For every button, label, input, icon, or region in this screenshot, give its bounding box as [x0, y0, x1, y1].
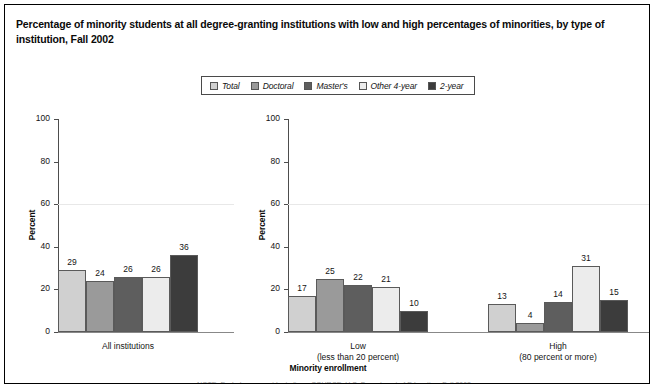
bar [288, 296, 316, 332]
bar [600, 300, 628, 332]
y-axis-tick [284, 204, 288, 205]
y-axis-tick [284, 247, 288, 248]
group-label-line1: High [498, 341, 618, 352]
x-axis-title: Minority enrollment [5, 363, 650, 373]
y-axis-tick [284, 332, 288, 333]
x-axis-line [288, 332, 650, 333]
bar [516, 323, 544, 332]
group-label-line1: Low [298, 341, 418, 352]
bar-value-label: 13 [482, 291, 522, 301]
y-axis-tick-label: 0 [258, 326, 280, 336]
y-axis-tick [284, 119, 288, 120]
bar-value-label: 15 [594, 287, 634, 297]
bar [400, 311, 428, 332]
chart-panel-minority-enrollment: 020406080100Percent1725222110Low(less th… [5, 5, 650, 384]
x-axis-group-label: Low(less than 20 percent) [298, 341, 418, 363]
group-label-line2: (less than 20 percent) [298, 352, 418, 363]
y-axis-tick-label: 80 [258, 156, 280, 166]
x-axis-group-label: High(80 percent or more) [498, 341, 618, 363]
bar [344, 285, 372, 332]
bar [316, 279, 344, 332]
y-axis-title: Percent [257, 195, 267, 255]
bar [572, 266, 600, 332]
y-axis-tick-label: 20 [258, 283, 280, 293]
clipped-footnote: NOTE: Excludes nonresident aliens. SOURC… [155, 381, 515, 384]
bar [544, 302, 572, 332]
figure-frame: Percentage of minority students at all d… [4, 4, 650, 384]
bar [372, 287, 400, 332]
group-label-line2: (80 percent or more) [498, 352, 618, 363]
bar-value-label: 10 [394, 298, 434, 308]
bar-value-label: 31 [566, 253, 606, 263]
bar-value-label: 21 [366, 274, 406, 284]
y-axis-tick-label: 100 [258, 113, 280, 123]
gridline-60 [288, 204, 650, 205]
y-axis-tick [284, 162, 288, 163]
